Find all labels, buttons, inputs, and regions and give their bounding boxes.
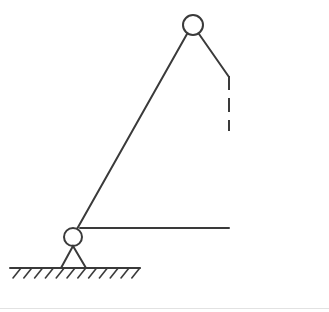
linkage-group xyxy=(10,15,229,278)
ground-hatch-mark xyxy=(78,268,86,278)
ground-hatch-mark xyxy=(89,268,97,278)
ground-hatch-mark xyxy=(35,268,43,278)
short-diagonal-strut xyxy=(199,34,229,77)
ground-hatch-mark xyxy=(121,268,129,278)
mechanism-svg-canvas xyxy=(0,0,329,312)
ground-hatch-mark xyxy=(110,268,118,278)
top-pin-joint-circle xyxy=(183,15,203,35)
bottom-pin-joint-circle xyxy=(64,228,82,246)
ground-hatch-mark xyxy=(45,268,53,278)
ground-hatch-mark xyxy=(24,268,32,278)
ground-hatch-mark xyxy=(99,268,107,278)
bottom-separator xyxy=(0,308,329,309)
ground-hatching-group xyxy=(13,268,140,278)
ground-hatch-mark xyxy=(13,268,21,278)
ground-hatch-mark xyxy=(67,268,75,278)
ground-hatch-mark xyxy=(56,268,64,278)
ground-hatch-mark xyxy=(132,268,140,278)
mechanism-diagram xyxy=(0,0,329,312)
long-diagonal-strut xyxy=(77,34,187,229)
pinned-support-triangle xyxy=(61,246,86,268)
